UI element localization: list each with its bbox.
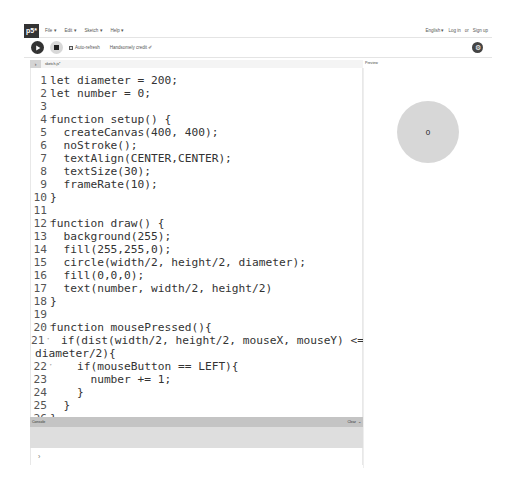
play-button[interactable]	[31, 41, 44, 54]
line-number: 5	[31, 126, 48, 139]
line-number: 13	[31, 230, 48, 243]
code-text: background(255);	[48, 230, 171, 243]
file-tab-bar: › sketch.js*	[30, 60, 363, 68]
line-number: 18	[31, 295, 48, 308]
code-line[interactable]: 23 number += 1;	[31, 373, 362, 386]
console-output	[30, 427, 363, 448]
code-text: fill(255,255,0);	[48, 243, 171, 256]
stop-button[interactable]	[50, 41, 63, 54]
line-number: 23	[31, 373, 48, 386]
line-number: 15	[31, 256, 48, 269]
sidebar-toggle[interactable]: ›	[30, 60, 41, 68]
line-number: 19	[31, 308, 48, 321]
console-title: Console	[32, 420, 45, 424]
auto-refresh-toggle[interactable]: Auto-refresh	[69, 45, 100, 50]
code-text: if(mouseButton == LEFT){	[48, 360, 239, 373]
console-controls: Clear ⌄	[347, 420, 361, 424]
code-text: circle(width/2, height/2, diameter);	[48, 256, 306, 269]
code-line[interactable]: 20function mousePressed(){	[31, 321, 362, 334]
code-line[interactable]: 25 }	[31, 399, 362, 412]
code-text: }	[48, 295, 57, 308]
menu-help[interactable]: Help ▾	[111, 28, 125, 33]
line-number[interactable]: 20	[31, 321, 48, 334]
line-number[interactable]: 22	[31, 360, 48, 373]
code-line[interactable]: 14 fill(255,255,0);	[31, 243, 362, 256]
console-input[interactable]: ›	[30, 448, 363, 465]
line-number: 17	[31, 282, 48, 295]
line-number: 24	[31, 386, 48, 399]
menu-sketch[interactable]: Sketch ▾	[85, 28, 103, 33]
code-line[interactable]: 9 frameRate(10);	[31, 178, 362, 191]
line-number[interactable]: 21	[31, 334, 45, 347]
file-tab[interactable]: sketch.js*	[45, 62, 60, 66]
line-number: 14	[31, 243, 48, 256]
line-number[interactable]: 4	[31, 113, 48, 126]
code-line[interactable]: 17 text(number, width/2, height/2)	[31, 282, 362, 295]
line-number: 6	[31, 139, 48, 152]
or-text: or	[465, 28, 469, 33]
auto-refresh-label: Auto-refresh	[75, 45, 100, 50]
gear-icon: ⚙	[475, 44, 481, 52]
code-line[interactable]: 1let diameter = 200;	[31, 74, 362, 87]
code-line[interactable]: 4function setup() {	[31, 113, 362, 126]
line-number: 8	[31, 165, 48, 178]
auto-refresh-checkbox[interactable]	[69, 46, 73, 50]
code-text: let diameter = 200;	[48, 74, 178, 87]
code-line[interactable]: 3	[31, 100, 362, 113]
code-line[interactable]: 8 textSize(30);	[31, 165, 362, 178]
code-line[interactable]: 19	[31, 308, 362, 321]
code-text: fill(0,0,0);	[48, 269, 144, 282]
code-line[interactable]: 11	[31, 204, 362, 217]
code-text: textSize(30);	[48, 165, 151, 178]
code-line[interactable]: 5 createCanvas(400, 400);	[31, 126, 362, 139]
stop-icon	[54, 45, 59, 50]
console-prompt-icon: ›	[38, 453, 40, 460]
p5-logo[interactable]: p5*	[24, 24, 39, 38]
code-line[interactable]: 13 background(255);	[31, 230, 362, 243]
sketch-canvas-circle[interactable]: 0	[397, 101, 459, 163]
code-text: function setup() {	[48, 113, 171, 126]
code-line[interactable]: 21 if(dist(width/2, height/2, mouseX, mo…	[31, 334, 362, 347]
sketch-name[interactable]: Handsomely credit ✐	[110, 45, 153, 50]
code-text: number += 1;	[48, 373, 171, 386]
preview-label: Preview	[365, 61, 378, 65]
code-line[interactable]: 15 circle(width/2, height/2, diameter);	[31, 256, 362, 269]
code-line[interactable]: diameter/2){	[31, 347, 362, 360]
code-text: diameter/2){	[31, 347, 116, 360]
code-line[interactable]: 12function draw() {	[31, 217, 362, 230]
code-line[interactable]: 7 textAlign(CENTER,CENTER);	[31, 152, 362, 165]
code-editor[interactable]: 1let diameter = 200;2let number = 0;34fu…	[30, 68, 363, 417]
line-number[interactable]: 12	[31, 217, 48, 230]
line-number: 10	[31, 191, 48, 204]
code-line[interactable]: 2let number = 0;	[31, 87, 362, 100]
code-text: }	[48, 191, 57, 204]
menu-edit[interactable]: Edit ▾	[65, 28, 77, 33]
line-number: 2	[31, 87, 48, 100]
console-clear-button[interactable]: Clear	[347, 420, 356, 424]
play-icon	[35, 45, 41, 51]
preview-pane[interactable]: 0	[363, 68, 516, 468]
line-number: 11	[31, 204, 48, 217]
code-line[interactable]: 22 if(mouseButton == LEFT){	[31, 360, 362, 373]
menu-file[interactable]: File ▾	[45, 28, 57, 33]
chevron-down-icon[interactable]: ⌄	[358, 420, 361, 424]
code-line[interactable]: 10}	[31, 191, 362, 204]
code-line[interactable]: 18}	[31, 295, 362, 308]
code-line[interactable]: 6 noStroke();	[31, 139, 362, 152]
language-select[interactable]: English ▾	[425, 28, 444, 33]
line-number: 16	[31, 269, 48, 282]
counter-text: 0	[426, 128, 430, 137]
code-text: function draw() {	[48, 217, 165, 230]
nav-right: English ▾ Log in or Sign up	[425, 28, 492, 33]
code-text: function mousePressed(){	[48, 321, 212, 334]
code-line[interactable]: 24 }	[31, 386, 362, 399]
line-number: 1	[31, 74, 48, 87]
login-link[interactable]: Log in	[448, 28, 460, 33]
main-menu: File ▾ Edit ▾ Sketch ▾ Help ▾	[45, 28, 124, 33]
code-text: frameRate(10);	[48, 178, 158, 191]
line-number: 7	[31, 152, 48, 165]
code-line[interactable]: 16 fill(0,0,0);	[31, 269, 362, 282]
line-number: 9	[31, 178, 48, 191]
signup-link[interactable]: Sign up	[473, 28, 488, 33]
settings-button[interactable]: ⚙	[472, 42, 483, 53]
